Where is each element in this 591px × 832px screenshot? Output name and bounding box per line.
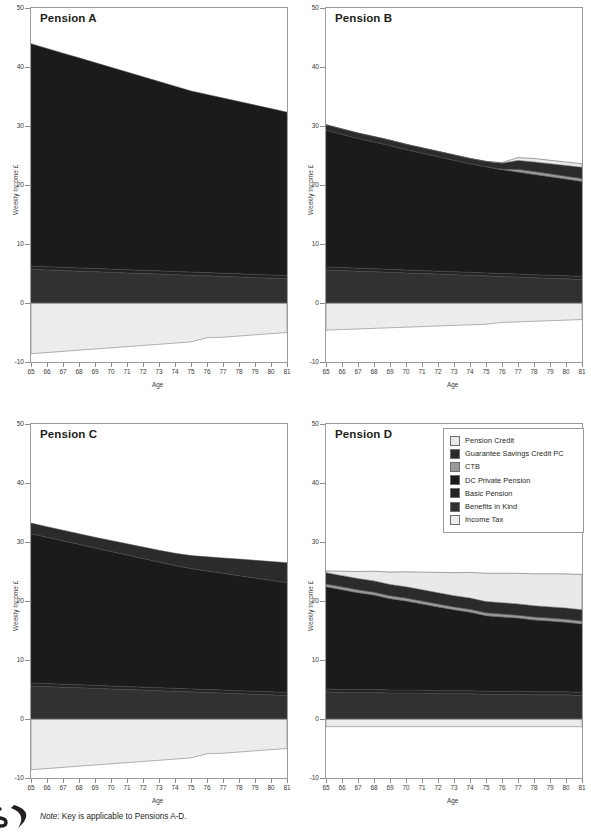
x-tick-label: 69 — [382, 368, 398, 375]
x-axis-label-a: Age — [152, 381, 163, 388]
x-tick-mark — [422, 779, 423, 783]
x-tick-mark — [390, 779, 391, 783]
x-tick-label: 77 — [510, 784, 526, 791]
y-tick-mark — [25, 424, 30, 425]
x-tick-mark — [326, 779, 327, 783]
y-tick-mark — [320, 244, 325, 245]
x-tick-label: 75 — [478, 784, 494, 791]
x-tick-label: 67 — [350, 368, 366, 375]
x-tick-label: 72 — [135, 368, 151, 375]
x-tick-mark — [342, 363, 343, 367]
chart-a — [31, 8, 288, 363]
x-tick-mark — [143, 779, 144, 783]
x-tick-label: 69 — [87, 784, 103, 791]
x-tick-label: 75 — [183, 784, 199, 791]
panel-title-b: Pension B — [335, 12, 392, 24]
x-tick-mark — [287, 779, 288, 783]
x-tick-label: 81 — [279, 368, 295, 375]
x-tick-mark — [111, 363, 112, 367]
x-tick-label: 79 — [247, 368, 263, 375]
x-tick-label: 79 — [247, 784, 263, 791]
x-tick-mark — [223, 779, 224, 783]
legend-item-label: Basic Pension — [465, 489, 512, 498]
legend-swatch-icon — [450, 475, 460, 485]
y-tick-mark — [320, 67, 325, 68]
legend-item: Pension Credit — [450, 434, 576, 447]
y-tick-mark — [320, 424, 325, 425]
area-series — [31, 44, 287, 276]
figure-note: Note: Key is applicable to Pensions A-D. — [40, 812, 187, 821]
x-tick-label: 78 — [231, 784, 247, 791]
x-tick-mark — [550, 779, 551, 783]
y-tick-mark — [25, 126, 30, 127]
x-tick-mark — [95, 363, 96, 367]
x-tick-mark — [63, 779, 64, 783]
legend-item-label: Pension Credit — [465, 436, 514, 445]
x-tick-label: 65 — [318, 368, 334, 375]
panel-title-d: Pension D — [335, 428, 392, 440]
x-tick-mark — [406, 363, 407, 367]
x-tick-label: 76 — [199, 784, 215, 791]
y-tick-mark — [320, 126, 325, 127]
legend-item-label: Benefits in Kind — [465, 502, 517, 511]
y-tick-label: 20 — [2, 181, 24, 188]
legend-item-label: DC Private Pension — [465, 476, 530, 485]
x-tick-mark — [287, 363, 288, 367]
x-tick-mark — [438, 363, 439, 367]
x-tick-label: 80 — [263, 784, 279, 791]
y-tick-mark — [320, 778, 325, 779]
x-tick-mark — [502, 779, 503, 783]
x-tick-mark — [271, 779, 272, 783]
panel-pension-a: Pension A Weekly Income £ Age -100102030… — [0, 0, 296, 416]
x-tick-mark — [223, 363, 224, 367]
y-tick-label: 30 — [297, 122, 319, 129]
x-axis-label-b: Age — [447, 381, 458, 388]
x-tick-label: 67 — [350, 784, 366, 791]
figure-root: Pension A Weekly Income £ Age -100102030… — [0, 0, 591, 832]
x-tick-mark — [207, 363, 208, 367]
x-tick-mark — [47, 363, 48, 367]
x-tick-mark — [255, 779, 256, 783]
y-tick-label: 10 — [297, 656, 319, 663]
y-tick-mark — [25, 244, 30, 245]
x-tick-mark — [534, 363, 535, 367]
x-tick-label: 75 — [183, 368, 199, 375]
y-tick-mark — [25, 483, 30, 484]
x-tick-mark — [239, 779, 240, 783]
x-tick-mark — [79, 363, 80, 367]
x-tick-label: 69 — [87, 368, 103, 375]
x-tick-label: 71 — [414, 368, 430, 375]
x-tick-label: 77 — [215, 784, 231, 791]
plot-area-b — [325, 7, 583, 363]
y-tick-label: 30 — [2, 538, 24, 545]
x-tick-label: 74 — [462, 784, 478, 791]
x-tick-mark — [534, 779, 535, 783]
legend-swatch-icon — [450, 488, 460, 498]
y-tick-mark — [320, 8, 325, 9]
x-tick-label: 72 — [430, 784, 446, 791]
x-tick-mark — [454, 363, 455, 367]
y-tick-label: 30 — [297, 538, 319, 545]
x-tick-mark — [454, 779, 455, 783]
legend-swatch-icon — [450, 436, 460, 446]
x-tick-mark — [127, 779, 128, 783]
x-tick-label: 73 — [151, 784, 167, 791]
organisation-logo — [0, 803, 44, 832]
legend-rows: Pension CreditGuarantee Savings Credit P… — [450, 434, 576, 526]
panel-title-c: Pension C — [40, 428, 97, 440]
x-tick-label: 70 — [398, 784, 414, 791]
y-tick-mark — [25, 67, 30, 68]
y-tick-label: 30 — [2, 122, 24, 129]
x-tick-label: 76 — [494, 784, 510, 791]
x-tick-mark — [438, 779, 439, 783]
x-tick-label: 80 — [558, 368, 574, 375]
x-tick-mark — [31, 363, 32, 367]
x-tick-label: 80 — [263, 368, 279, 375]
x-tick-label: 65 — [318, 784, 334, 791]
y-tick-label: -10 — [297, 774, 319, 781]
x-tick-label: 66 — [39, 784, 55, 791]
x-tick-mark — [550, 363, 551, 367]
x-tick-label: 74 — [167, 368, 183, 375]
y-tick-label: 10 — [2, 656, 24, 663]
x-tick-mark — [374, 779, 375, 783]
